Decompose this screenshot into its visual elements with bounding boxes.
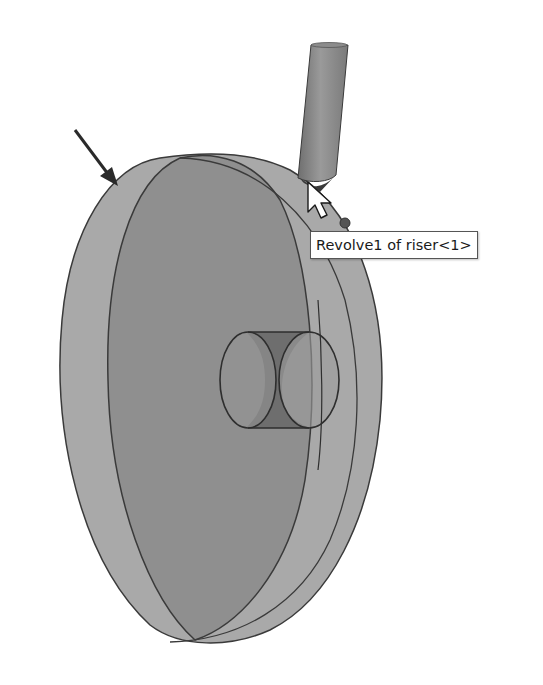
riser-body[interactable] — [298, 45, 348, 182]
feature-tooltip: Revolve1 of riser<1> — [310, 231, 478, 259]
selection-dot-icon — [340, 218, 350, 228]
pointer-arrow-icon — [75, 130, 118, 186]
graphics-viewport[interactable] — [0, 0, 543, 685]
hole-edge-left — [220, 332, 276, 428]
hole-edge-right — [279, 332, 339, 428]
riser[interactable] — [298, 43, 348, 193]
